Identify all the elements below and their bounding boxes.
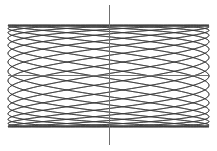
lissajous-figure bbox=[0, 0, 217, 151]
plot-canvas bbox=[0, 0, 217, 151]
